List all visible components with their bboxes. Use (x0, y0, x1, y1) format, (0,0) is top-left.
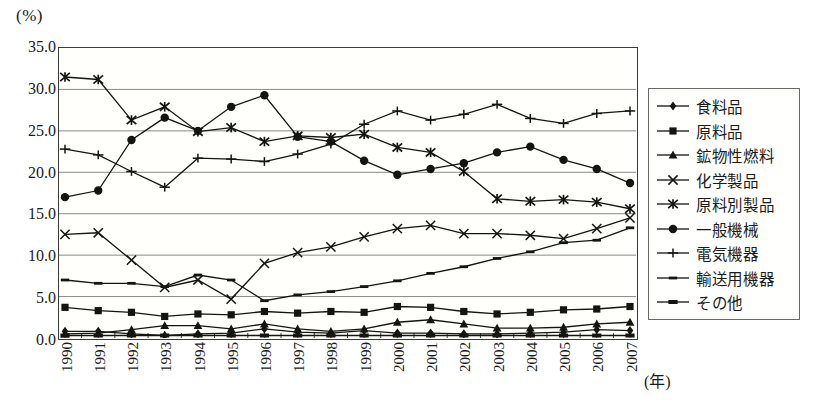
x-tick-label: 1993 (158, 342, 175, 372)
x-tick-label: 1999 (358, 342, 375, 372)
x-tick-label: 2004 (524, 342, 541, 372)
x-axis-unit-label: (年) (644, 368, 671, 392)
legend-item-triangle[interactable]: 鉱物性燃料 (655, 143, 795, 168)
x-tick-label: 2006 (590, 342, 607, 372)
triangle-icon (655, 145, 691, 165)
x-tick-label: 1998 (324, 342, 341, 372)
thickdash-icon (655, 292, 691, 312)
legend-item-label: 鉱物性燃料 (691, 144, 775, 166)
y-tick-label: 35.0 (10, 38, 56, 56)
legend-item-label: 電気機器 (691, 242, 759, 264)
legend-item-asterisk[interactable]: 原料別製品 (655, 192, 795, 217)
circle-icon (655, 219, 691, 239)
series-cross (60, 213, 634, 303)
y-tick-label: 0.0 (10, 331, 56, 349)
legend-item-cross[interactable]: 化学製品 (655, 168, 795, 193)
plus-icon (655, 243, 691, 263)
y-tick-label: 10.0 (10, 247, 56, 265)
y-axis: 0.05.010.015.020.025.030.035.0 (8, 0, 56, 410)
chart-lines (59, 48, 636, 338)
series-circle (61, 91, 634, 201)
asterisk-icon (655, 194, 691, 214)
dash-icon (655, 268, 691, 288)
x-axis: 1990199119921993199419951996199719981999… (58, 342, 638, 404)
series-asterisk (60, 72, 635, 213)
legend-item-circle[interactable]: 一般機械 (655, 217, 795, 242)
legend-item-diamond[interactable]: 食料品 (655, 94, 795, 119)
legend-item-label: 原料品 (691, 120, 743, 142)
x-tick-label: 1994 (192, 342, 209, 372)
x-tick-label: 1992 (125, 342, 142, 372)
y-tick-label: 5.0 (10, 289, 56, 307)
legend-item-label: 化学製品 (691, 169, 759, 191)
x-tick-label: 2007 (624, 342, 641, 372)
series-square (61, 303, 633, 320)
legend-item-plus[interactable]: 電気機器 (655, 241, 795, 266)
y-tick-label: 30.0 (10, 80, 56, 98)
series-dash (61, 226, 634, 302)
y-tick-label: 25.0 (10, 122, 56, 140)
legend-item-label: 原料別製品 (691, 193, 775, 215)
plot-area (58, 47, 638, 340)
chart-legend: 食料品原料品鉱物性燃料化学製品原料別製品一般機械電気機器輸送用機器その他 (648, 88, 800, 320)
square-icon (655, 121, 691, 141)
x-tick-label: 1990 (59, 342, 76, 372)
legend-item-label: 食料品 (691, 95, 743, 117)
legend-item-thickdash[interactable]: その他 (655, 290, 795, 315)
x-tick-label: 2005 (557, 342, 574, 372)
x-tick-label: 1991 (92, 342, 109, 372)
x-tick-label: 2000 (391, 342, 408, 372)
legend-item-label: 輸送用機器 (691, 267, 775, 289)
cross-icon (655, 170, 691, 190)
legend-item-label: その他 (691, 291, 743, 313)
chart-container: (%) 0.05.010.015.020.025.030.035.0 19901… (0, 0, 814, 410)
x-tick-label: 2003 (491, 342, 508, 372)
diamond-icon (655, 96, 691, 116)
legend-item-dash[interactable]: 輸送用機器 (655, 266, 795, 291)
y-tick-label: 20.0 (10, 164, 56, 182)
x-tick-label: 1996 (258, 342, 275, 372)
x-tick-label: 1997 (291, 342, 308, 372)
legend-item-label: 一般機械 (691, 218, 759, 240)
y-tick-label: 15.0 (10, 205, 56, 223)
legend-item-square[interactable]: 原料品 (655, 119, 795, 144)
x-tick-label: 2001 (424, 342, 441, 372)
x-tick-label: 1995 (225, 342, 242, 372)
x-tick-label: 2002 (457, 342, 474, 372)
